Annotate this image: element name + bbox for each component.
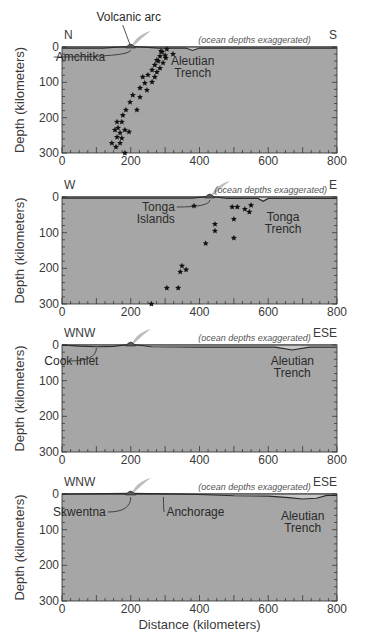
y-tick-label: 200 [39, 409, 59, 423]
y-tick-label: 300 [39, 594, 59, 608]
y-tick-label: 200 [39, 111, 59, 125]
x-tick-label: 600 [258, 305, 278, 319]
ocean-depth-note: (ocean depths exaggerated) [198, 482, 311, 492]
y-tick-label: 200 [39, 558, 59, 572]
ocean-depth-note: (ocean depths exaggerated) [198, 35, 311, 45]
y-tick-label: 0 [52, 487, 59, 501]
y-tick-label: 0 [52, 190, 59, 204]
x-tick-label: 800 [327, 154, 347, 168]
y-axis-label: Depth (kilometers) [12, 47, 27, 153]
y-tick-label: 0 [52, 338, 59, 352]
x-tick-label: 600 [258, 602, 278, 616]
subduction-cross-sections-figure: 01002003000200400600800Depth (kilometers… [0, 0, 366, 643]
x-tick-label: 400 [189, 305, 209, 319]
direction-left-label: WNW [64, 326, 96, 340]
eruption-plume-icon [133, 31, 151, 45]
y-tick-label: 300 [39, 445, 59, 459]
y-axis-label: Depth (kilometers) [12, 345, 27, 451]
y-tick-label: 300 [39, 297, 59, 311]
x-tick-label: 0 [59, 305, 66, 319]
direction-right-label: E [329, 178, 337, 192]
direction-left-label: WNW [64, 475, 96, 489]
x-tick-label: 200 [121, 602, 141, 616]
x-tick-label: 200 [121, 453, 141, 467]
eruption-plume-icon [133, 329, 151, 343]
x-tick-label: 200 [121, 305, 141, 319]
x-tick-label: 400 [189, 154, 209, 168]
annotation-trench-label-2: Trench [274, 366, 311, 380]
ocean-depth-note: (ocean depths exaggerated) [198, 333, 311, 343]
annotation-arrow-label: Skwentna [53, 505, 106, 519]
annotation-arc-label-2: Islands [137, 212, 175, 226]
panel-4: 01002003000200400600800Depth (kilometers… [12, 475, 347, 632]
x-tick-label: 0 [59, 154, 66, 168]
annotation-trench-label-2: Trench [265, 222, 302, 236]
y-axis-label: Depth (kilometers) [12, 197, 27, 303]
direction-left-label: W [64, 178, 76, 192]
ocean-depth-note: (ocean depths exaggerated) [214, 185, 327, 195]
y-tick-label: 100 [39, 226, 59, 240]
x-axis-label: Distance (kilometers) [138, 617, 260, 632]
y-tick-label: 100 [39, 374, 59, 388]
x-tick-label: 0 [59, 453, 66, 467]
x-tick-label: 600 [258, 154, 278, 168]
y-tick-label: 100 [39, 523, 59, 537]
x-tick-label: 800 [327, 305, 347, 319]
panel-1: 01002003000200400600800Depth (kilometers… [12, 10, 347, 168]
y-axis-label: Depth (kilometers) [12, 494, 27, 600]
x-tick-label: 400 [189, 602, 209, 616]
annotation-arrow-label-2: Anchorage [166, 505, 224, 519]
y-tick-label: 200 [39, 261, 59, 275]
direction-left-label: N [64, 28, 73, 42]
eruption-plume-icon [133, 478, 151, 492]
annotation-volcano-label: Volcanic arc [96, 10, 161, 24]
x-tick-label: 600 [258, 453, 278, 467]
y-tick-label: 300 [39, 146, 59, 160]
annotation-trench-label-2: Trench [174, 66, 211, 80]
panel-3: 01002003000200400600800Depth (kilometers… [12, 326, 347, 467]
direction-right-label: ESE [313, 475, 337, 489]
x-tick-label: 400 [189, 453, 209, 467]
x-tick-label: 0 [59, 602, 66, 616]
x-tick-label: 800 [327, 453, 347, 467]
x-tick-label: 800 [327, 602, 347, 616]
pointer-arrow-icon [123, 25, 130, 44]
direction-right-label: ESE [313, 326, 337, 340]
panel-2: 01002003000200400600800Depth (kilometers… [12, 178, 347, 319]
annotation-trench-label-2: Trench [284, 521, 321, 535]
y-tick-label: 100 [39, 75, 59, 89]
direction-right-label: S [329, 28, 337, 42]
x-tick-label: 200 [121, 154, 141, 168]
